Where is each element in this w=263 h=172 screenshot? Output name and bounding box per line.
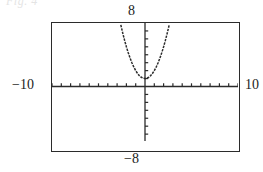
x-min-label: −10 bbox=[12, 78, 34, 92]
x-max-label: 10 bbox=[245, 78, 259, 92]
plot-area bbox=[52, 23, 239, 151]
y-min-label: −8 bbox=[0, 152, 263, 166]
figure-root: Fig. 4 8 −8 −10 10 bbox=[0, 0, 263, 172]
y-max-label: 8 bbox=[0, 4, 263, 18]
graph-canvas bbox=[52, 23, 238, 150]
plot-frame bbox=[51, 22, 240, 152]
